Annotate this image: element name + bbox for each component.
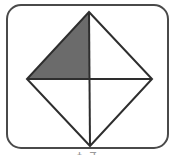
figure-screenshot: 1 4 xyxy=(0,0,174,165)
vertical-divider xyxy=(89,12,90,146)
diamond-figure-svg xyxy=(0,0,174,165)
